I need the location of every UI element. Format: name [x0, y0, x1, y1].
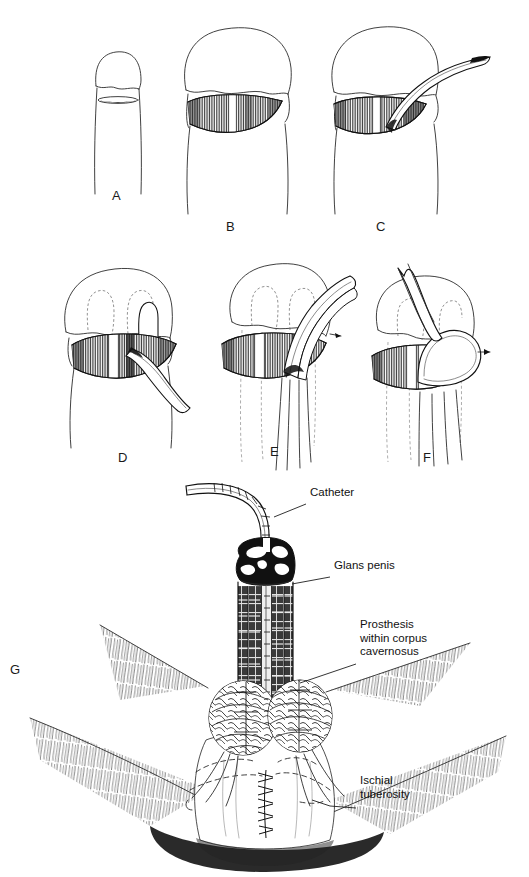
arrow-marker-head-f	[484, 349, 490, 355]
panel-letter-c: C	[376, 219, 386, 234]
panel-a-art	[95, 52, 142, 194]
suture-strand-e4	[307, 378, 311, 462]
corporal-tunnel-left-dashed-d	[87, 290, 114, 334]
shaft-right-a	[139, 89, 141, 194]
figure-canvas: A B C D E F G Catheter Glans penis Prost…	[0, 0, 529, 877]
panel-letter-e: E	[270, 444, 279, 459]
callout-label-prosthesis-within-corpus-cavernosus: Prosthesis within corpus cavernosus	[360, 618, 427, 659]
leader-glans-penis	[292, 577, 330, 584]
suture-strand-f2	[432, 394, 434, 466]
shaft-left-lower-b	[187, 126, 190, 214]
panel-g-art	[30, 483, 506, 872]
leader-catheter	[274, 504, 306, 517]
suture-strand-e2	[287, 380, 290, 470]
callout-label-catheter: Catheter	[310, 486, 354, 500]
left-upper-thigh-hair	[100, 625, 205, 700]
corporal-tunnel-left-dashed-e	[251, 286, 278, 330]
coronal-groove-a	[96, 86, 139, 89]
shaft-right-upper-b	[285, 94, 289, 122]
left-lower-thigh-hair	[30, 718, 210, 826]
panel-d-art	[65, 268, 190, 448]
illustration-svg	[0, 0, 529, 877]
catheter	[186, 484, 269, 546]
panel-letter-a: A	[112, 188, 121, 203]
shaft-left-upper-d	[68, 338, 72, 366]
prosthesis-tip-in-glans-d	[139, 302, 158, 338]
right-lower-thigh-hair	[330, 736, 506, 834]
panel-letter-b: B	[226, 219, 235, 234]
meatus-catheter-entry	[263, 538, 270, 552]
shaft-right-lower-b	[285, 124, 288, 214]
leader-prosthesis	[300, 664, 356, 683]
shaft-right-upper-c	[434, 96, 438, 122]
panel-f-art	[370, 264, 490, 466]
shaft-left-lower-d	[70, 368, 74, 448]
suture-strand-f3	[444, 392, 448, 464]
glans-outline-b	[185, 28, 292, 94]
panel-letter-g: G	[10, 662, 21, 677]
shaft-right-lower-c	[434, 124, 438, 214]
prosthesis-rod-proximal-f	[398, 268, 442, 341]
callout-label-ischial-tuberosity: Ischial tuberosity	[360, 774, 410, 801]
coronal-groove-b	[186, 90, 288, 94]
suture-strand-f1	[419, 392, 420, 466]
suture-strand-e3	[299, 380, 300, 468]
shaft-left-a	[95, 88, 97, 194]
panel-letter-d: D	[118, 450, 128, 465]
panel-e-art	[220, 264, 357, 470]
glans-outline-a	[96, 52, 141, 89]
shaft-right-lower-d	[168, 366, 172, 448]
callout-label-glans-penis: Glans penis	[334, 559, 395, 573]
panel-b-art	[185, 28, 292, 214]
panel-letter-f: F	[423, 450, 431, 465]
panel-c-art	[332, 27, 490, 214]
shaft-left-lower-c	[334, 128, 337, 214]
